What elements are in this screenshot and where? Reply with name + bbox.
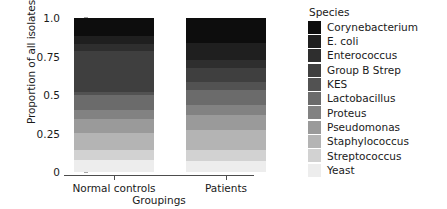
legend-item: Pseudomonas (308, 120, 444, 134)
legend-label: Lactobacillus (327, 93, 395, 104)
legend-label: Pseudomonas (327, 122, 400, 133)
bar-segment (74, 95, 154, 110)
bar-segment (186, 130, 266, 149)
legend-label: Corynebacterium (327, 22, 418, 33)
legend-label: Yeast (327, 165, 355, 176)
legend-label: Group B Strep (327, 65, 401, 76)
legend-items: CorynebacteriumE. coliEnterococcusGroup … (308, 20, 444, 177)
legend-title: Species (308, 6, 444, 18)
legend-label: KES (327, 79, 347, 90)
legend-swatch (308, 106, 321, 119)
x-axis-tick-label: Normal controls (72, 182, 155, 194)
bar-segment (74, 44, 154, 51)
legend-label: Proteus (327, 108, 366, 119)
legend-swatch (308, 64, 321, 77)
legend-swatch (308, 164, 321, 177)
legend-item: Lactobacillus (308, 91, 444, 105)
bar-patients (186, 18, 266, 172)
plot-panel (66, 18, 252, 172)
legend-swatch (308, 21, 321, 34)
legend-label: Enterococcus (327, 50, 397, 61)
y-axis-tick-label: 0.25 (22, 128, 60, 140)
legend-item: Streptococcus (308, 149, 444, 163)
bar-segment (74, 160, 154, 172)
legend-label: Streptococcus (327, 151, 401, 162)
legend-swatch (308, 35, 321, 48)
bar-segment (74, 150, 154, 160)
legend-item: Proteus (308, 106, 444, 120)
bar-segment (186, 150, 266, 162)
legend-swatch (308, 149, 321, 162)
bar-segment (74, 110, 154, 118)
x-axis-tick-label: Patients (205, 182, 247, 194)
legend-swatch (308, 78, 321, 91)
bar-segment (74, 133, 154, 151)
legend-swatch (308, 92, 321, 105)
legend-item: E. coli (308, 34, 444, 48)
legend: Species CorynebacteriumE. coliEnterococc… (308, 6, 444, 177)
bar-segment (74, 51, 154, 92)
legend-item: Staphylococcus (308, 134, 444, 148)
bar-segment (74, 119, 154, 133)
legend-item: Yeast (308, 163, 444, 177)
legend-item: Corynebacterium (308, 20, 444, 34)
x-axis-tick-mark (226, 176, 227, 180)
bar-normal-controls (74, 18, 154, 172)
bar-segment (186, 18, 266, 43)
bar-segment (186, 43, 266, 59)
legend-label: E. coli (327, 36, 358, 47)
bar-segment (186, 60, 266, 68)
stacked-bar-chart: Proportion of all isolates 00.250.50.751… (0, 0, 447, 209)
bar-segment (74, 36, 154, 44)
bar-segment (186, 82, 266, 90)
bar-segment (186, 68, 266, 82)
legend-swatch (308, 49, 321, 62)
legend-label: Staphylococcus (327, 136, 409, 147)
bar-segment (186, 161, 266, 172)
bar-segment (186, 90, 266, 105)
y-axis-tick-label: 1.0 (22, 12, 60, 24)
legend-item: Enterococcus (308, 49, 444, 63)
y-axis-tick-label: 0.5 (22, 89, 60, 101)
y-axis-tick-label: 0 (22, 166, 60, 178)
legend-item: Group B Strep (308, 63, 444, 77)
bar-segment (186, 115, 266, 130)
bar-segment (74, 18, 154, 36)
x-axis-title: Groupings (66, 194, 252, 206)
y-axis-tick-labels: 00.250.50.751.0 (22, 14, 60, 174)
x-axis-tick-mark (114, 176, 115, 180)
legend-item: KES (308, 77, 444, 91)
legend-swatch (308, 121, 321, 134)
legend-swatch (308, 135, 321, 148)
y-axis-tick-label: 0.75 (22, 51, 60, 63)
bar-segment (186, 105, 266, 115)
